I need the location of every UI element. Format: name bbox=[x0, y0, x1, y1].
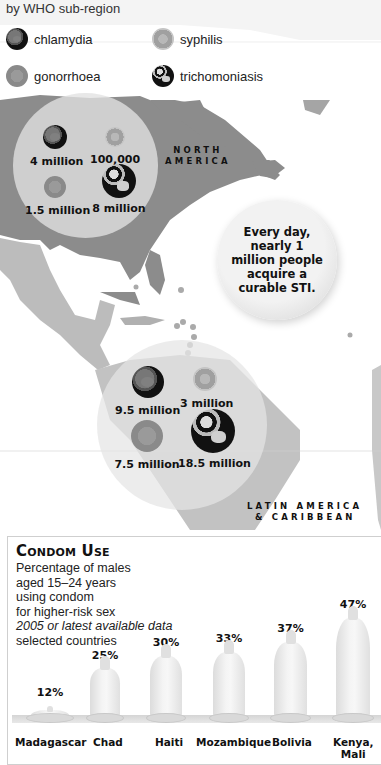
chlamydia-icon bbox=[6, 28, 28, 50]
desc-line: for higher-risk sex bbox=[16, 605, 172, 620]
stat-value: 9.5 million bbox=[115, 404, 180, 417]
legend-chlamydia: chlamydia bbox=[6, 28, 93, 50]
condom-ring bbox=[209, 713, 249, 723]
panel-description: Percentage of males aged 15–24 years usi… bbox=[16, 561, 172, 648]
region-label-line1: LATIN AMERICA bbox=[247, 501, 362, 512]
trichomoniasis-icon bbox=[152, 65, 174, 87]
condom-tip bbox=[100, 656, 110, 670]
la-syphilis: 3 million bbox=[180, 367, 230, 410]
condom-tip bbox=[224, 640, 234, 654]
na-trichomoniasis: 8 million bbox=[89, 164, 149, 215]
condom-shape bbox=[150, 656, 182, 720]
gonorrhoea-icon bbox=[6, 65, 28, 87]
country-label: Bolivia bbox=[272, 736, 312, 748]
syphilis-icon bbox=[105, 127, 125, 147]
legend-trichomoniasis: trichomoniasis bbox=[152, 65, 263, 87]
legend-label: gonorrhoea bbox=[34, 69, 101, 84]
chlamydia-icon bbox=[43, 125, 67, 149]
bar-value: 12% bbox=[30, 686, 70, 699]
region-label-line2: & CARIBBEAN bbox=[247, 512, 362, 523]
gonorrhoea-icon bbox=[131, 420, 163, 452]
condom-shape bbox=[336, 618, 370, 720]
country-label: Mozambique bbox=[196, 736, 271, 748]
chart-subtitle: by WHO sub-region bbox=[6, 1, 120, 16]
country-label: Chad bbox=[93, 736, 123, 748]
la-trichomoniasis: 18.5 million bbox=[178, 409, 248, 470]
fact-bubble: Every day, nearly 1 million people acqui… bbox=[217, 200, 337, 320]
region-label-line1: NORTH bbox=[165, 145, 231, 156]
gonorrhoea-icon bbox=[44, 176, 66, 198]
condom-tip bbox=[47, 706, 53, 712]
legend-label: trichomoniasis bbox=[180, 69, 263, 84]
condom-ring bbox=[270, 713, 311, 723]
la-chlamydia: 9.5 million bbox=[115, 366, 180, 417]
trichomoniasis-icon bbox=[191, 409, 235, 453]
condom-tip bbox=[161, 644, 171, 658]
stat-value: 8 million bbox=[89, 202, 149, 215]
country-label: Kenya, Mali bbox=[333, 736, 373, 760]
fact-text: Every day, nearly 1 million people acqui… bbox=[227, 225, 327, 295]
desc-line: selected countries bbox=[16, 634, 172, 649]
bar-bolivia: 37% bbox=[274, 622, 307, 720]
chlamydia-icon bbox=[132, 366, 164, 398]
desc-line: using condom bbox=[16, 590, 172, 605]
condom-ring bbox=[146, 713, 186, 723]
bar-chad: 25% bbox=[90, 649, 120, 720]
stat-value: 7.5 million bbox=[112, 458, 182, 471]
stat-value: 18.5 million bbox=[178, 457, 248, 470]
na-chlamydia: 4 million bbox=[30, 125, 80, 168]
syphilis-icon bbox=[152, 28, 174, 50]
trichomoniasis-icon bbox=[102, 164, 136, 198]
country-label: Madagascar bbox=[15, 736, 86, 748]
syphilis-icon bbox=[193, 367, 217, 391]
stat-value: 1.5 million bbox=[25, 204, 85, 217]
legend-label: chlamydia bbox=[34, 32, 93, 47]
legend-gonorrhoea: gonorrhoea bbox=[6, 65, 101, 87]
desc-line: aged 15–24 years bbox=[16, 576, 172, 591]
condom-ring bbox=[26, 713, 74, 723]
la-gonorrhoea: 7.5 million bbox=[112, 420, 182, 471]
na-gonorrhoea: 1.5 million bbox=[25, 176, 85, 217]
stat-value: 4 million bbox=[30, 155, 80, 168]
panel-title: Condom Use bbox=[16, 542, 110, 560]
condom-ring bbox=[86, 713, 124, 723]
na-syphilis: 100,000 bbox=[90, 127, 140, 166]
country-label-line1: Kenya, bbox=[333, 736, 373, 748]
country-label: Haiti bbox=[155, 736, 183, 748]
country-label-line2: Mali bbox=[333, 748, 373, 760]
condom-tip bbox=[348, 606, 358, 620]
bar-haiti: 30% bbox=[150, 636, 182, 720]
condom-shape bbox=[274, 642, 307, 720]
bar-madagascar: 12% bbox=[30, 686, 70, 720]
legend-label: syphilis bbox=[180, 32, 223, 47]
bar-kenya-mali: 47% bbox=[336, 598, 370, 720]
region-label-line2: AMERICA bbox=[165, 156, 231, 167]
north-america-label: NORTH AMERICA bbox=[165, 145, 231, 167]
latin-america-label: LATIN AMERICA & CARIBBEAN bbox=[247, 501, 362, 523]
condom-ring bbox=[332, 713, 374, 723]
data-year-note: 2005 or latest available data bbox=[16, 619, 172, 634]
desc-line: Percentage of males bbox=[16, 561, 172, 576]
condom-use-panel: Condom Use Percentage of males aged 15–2… bbox=[7, 536, 381, 765]
condom-tip bbox=[286, 630, 296, 644]
condom-shape bbox=[213, 652, 245, 720]
bar-mozambique: 33% bbox=[213, 632, 245, 720]
legend-syphilis: syphilis bbox=[152, 28, 223, 50]
